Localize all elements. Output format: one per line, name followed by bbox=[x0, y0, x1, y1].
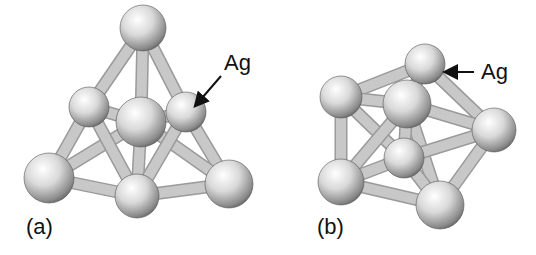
ag-label-b: Ag bbox=[481, 61, 508, 83]
atom-sphere bbox=[320, 76, 362, 118]
atom-sphere bbox=[472, 108, 516, 152]
ag-arrow-a bbox=[196, 76, 221, 105]
panel-caption-b: (b) bbox=[317, 216, 344, 238]
atom-sphere bbox=[318, 159, 364, 205]
atom-sphere bbox=[24, 153, 74, 203]
atom-sphere bbox=[69, 87, 109, 127]
atom-sphere bbox=[383, 80, 431, 128]
atom-sphere bbox=[384, 138, 424, 178]
atoms-panel-a bbox=[24, 5, 253, 218]
atom-sphere bbox=[166, 92, 206, 132]
atom-sphere bbox=[416, 181, 464, 229]
atom-sphere bbox=[120, 5, 166, 51]
atom-sphere bbox=[205, 160, 253, 208]
cluster-diagram bbox=[0, 0, 536, 255]
atom-sphere bbox=[115, 174, 159, 218]
ag-label-a: Ag bbox=[224, 52, 251, 74]
atom-sphere bbox=[405, 44, 445, 84]
atom-sphere bbox=[116, 97, 166, 147]
panel-caption-a: (a) bbox=[26, 216, 53, 238]
